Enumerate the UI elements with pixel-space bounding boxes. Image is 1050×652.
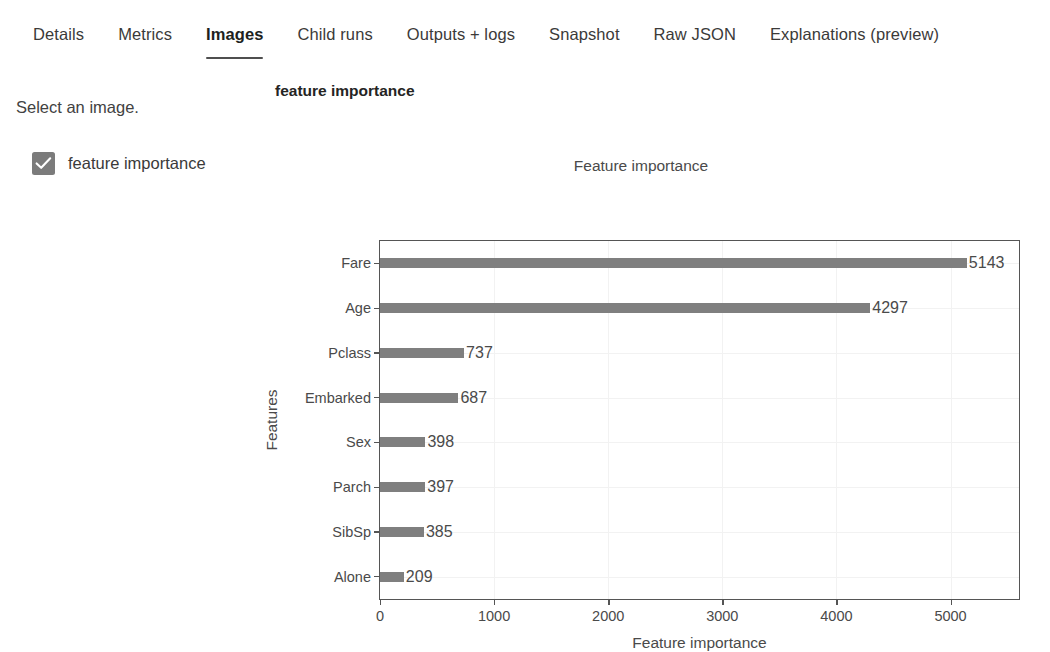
x-gridline	[608, 241, 609, 599]
tab-label: Explanations (preview)	[770, 25, 939, 43]
tab-selected-underline	[206, 57, 263, 60]
bar	[380, 572, 404, 582]
bar-value-label: 209	[406, 568, 433, 586]
x-tick-mark	[494, 599, 495, 605]
bar	[380, 258, 967, 268]
x-tick-label: 2000	[592, 608, 624, 624]
y-tick-label: Fare	[341, 255, 371, 271]
tab-images[interactable]: Images	[189, 22, 280, 46]
feature-importance-chart: Feature importance Features Fare5143Age4…	[262, 142, 1050, 609]
x-tick-mark	[836, 599, 837, 605]
x-axis-title: Feature importance	[379, 634, 1020, 652]
tab-label: Raw JSON	[654, 25, 736, 43]
y-gridline	[380, 532, 1019, 533]
bar-value-label: 5143	[969, 254, 1005, 272]
tab-snapshot[interactable]: Snapshot	[532, 22, 637, 46]
x-gridline	[951, 241, 952, 599]
chart-title: Feature importance	[262, 157, 1050, 175]
y-tick-label: Embarked	[305, 390, 371, 406]
x-tick-mark	[380, 599, 381, 605]
bar	[380, 527, 424, 537]
check-icon	[35, 156, 52, 171]
tab-label: Images	[206, 25, 263, 43]
y-gridline	[380, 442, 1019, 443]
bar	[380, 348, 464, 358]
x-gridline	[836, 241, 837, 599]
image-list-item-feature-importance[interactable]: feature importance	[32, 152, 206, 175]
tab-label: Metrics	[118, 25, 172, 43]
select-image-prompt: Select an image.	[16, 98, 139, 117]
y-tick-label: Sex	[346, 434, 371, 450]
tab-bar: Details Metrics Images Child runs Output…	[0, 0, 1050, 62]
image-selector-pane: Select an image. feature importance	[0, 62, 262, 609]
image-list-item-label: feature importance	[68, 154, 206, 173]
image-viewer-pane: feature importance Feature importance Fe…	[262, 62, 1050, 609]
y-gridline	[380, 577, 1019, 578]
tab-label: Outputs + logs	[407, 25, 515, 43]
tab-details[interactable]: Details	[16, 22, 101, 46]
y-tick-label: Alone	[334, 569, 371, 585]
bar-value-label: 385	[426, 523, 453, 541]
y-tick-label: Age	[345, 300, 371, 316]
y-tick-label: SibSp	[332, 524, 371, 540]
tab-label: Snapshot	[549, 25, 620, 43]
x-tick-label: 0	[376, 608, 384, 624]
bar	[380, 482, 425, 492]
x-tick-label: 4000	[820, 608, 852, 624]
tab-explanations-preview[interactable]: Explanations (preview)	[753, 22, 956, 46]
x-tick-mark	[608, 599, 609, 605]
x-tick-label: 1000	[478, 608, 510, 624]
tab-label: Child runs	[297, 25, 372, 43]
bar-value-label: 687	[460, 389, 487, 407]
bar	[380, 437, 425, 447]
checkbox-checked-icon[interactable]	[32, 152, 55, 175]
y-axis-title: Features	[263, 389, 281, 450]
x-tick-label: 3000	[706, 608, 738, 624]
tab-raw-json[interactable]: Raw JSON	[637, 22, 753, 46]
bar-value-label: 398	[427, 433, 454, 451]
plot-area: Fare5143Age4297Pclass737Embarked687Sex39…	[379, 240, 1020, 600]
tab-outputs-logs[interactable]: Outputs + logs	[390, 22, 532, 46]
bar-value-label: 397	[427, 478, 454, 496]
tab-child-runs[interactable]: Child runs	[280, 22, 389, 46]
y-tick-label: Pclass	[328, 345, 371, 361]
tab-metrics[interactable]: Metrics	[101, 22, 189, 46]
bar-value-label: 737	[466, 344, 493, 362]
x-gridline	[494, 241, 495, 599]
bar-value-label: 4297	[872, 299, 908, 317]
x-gridline	[722, 241, 723, 599]
bar	[380, 393, 458, 403]
x-tick-mark	[722, 599, 723, 605]
tab-label: Details	[33, 25, 84, 43]
panel-heading: feature importance	[275, 82, 415, 100]
y-gridline	[380, 487, 1019, 488]
y-tick-label: Parch	[333, 479, 371, 495]
x-tick-label: 5000	[934, 608, 966, 624]
bar	[380, 303, 870, 313]
x-tick-mark	[951, 599, 952, 605]
